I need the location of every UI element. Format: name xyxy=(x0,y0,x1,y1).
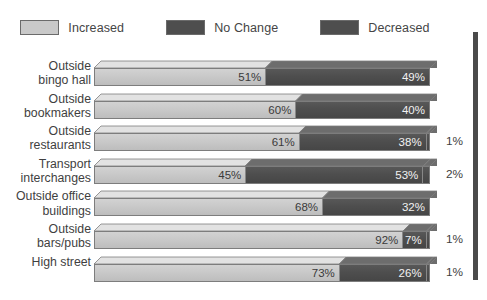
category-label-line: High street xyxy=(0,255,91,269)
category-label-line: bingo hall xyxy=(0,73,91,87)
legend-item-no_change: No Change xyxy=(166,20,278,35)
bar-top-face-no_change xyxy=(339,257,433,264)
outside-value-label: 2% xyxy=(446,167,463,181)
chart-row: Outsidebingo hall51%49% xyxy=(0,58,487,91)
stacked-bar[interactable]: 45%53% xyxy=(94,159,437,184)
category-label-line: bookmakers xyxy=(0,106,91,120)
segment-value-label: 68% xyxy=(295,201,322,213)
bar-top-bevel xyxy=(94,94,437,101)
segment-value-label: 51% xyxy=(238,71,265,83)
segment-value-label: 26% xyxy=(399,267,426,279)
bar-segment-increased[interactable]: 68% xyxy=(95,199,322,215)
category-label-line: restaurants xyxy=(0,138,91,152)
legend-item-increased: Increased xyxy=(20,20,124,35)
category-label: Outside officebuildings xyxy=(0,188,94,217)
bar-container: 60%40% xyxy=(94,91,487,124)
legend-item-decreased: Decreased xyxy=(320,20,429,35)
segment-value-label: 61% xyxy=(272,136,299,148)
bar-top-bevel xyxy=(94,224,437,231)
chart-row: Transportinterchanges45%53%2% xyxy=(0,156,487,189)
bar-top-face-increased xyxy=(94,257,346,264)
category-label-line: Outside xyxy=(0,222,91,236)
bar-segment-decreased[interactable] xyxy=(422,167,429,183)
category-label-line: buildings xyxy=(0,204,91,218)
stacked-bar[interactable]: 61%38% xyxy=(94,126,437,151)
bar-top-bevel xyxy=(94,257,437,264)
stacked-bar-chart: Outsidebingo hall51%49%Outsidebookmakers… xyxy=(0,58,487,293)
segment-value-label: 40% xyxy=(402,104,429,116)
legend-label: Increased xyxy=(68,21,124,35)
segment-value-label: 45% xyxy=(218,169,245,181)
category-label-line: Transport xyxy=(0,157,91,171)
segment-value-label: 73% xyxy=(312,267,339,279)
segment-value-label: 53% xyxy=(395,169,422,181)
segment-value-label: 38% xyxy=(399,136,426,148)
chart-legend: IncreasedNo ChangeDecreased xyxy=(0,20,450,35)
bar-segment-no_change[interactable]: 53% xyxy=(245,167,422,183)
bar-segment-no_change[interactable]: 38% xyxy=(299,134,426,150)
bar-top-face-no_change xyxy=(322,191,437,198)
bar-top-face-increased xyxy=(94,94,303,101)
bar-segment-decreased[interactable] xyxy=(426,265,429,281)
legend-swatch-no_change-icon xyxy=(166,20,205,35)
bar-segment-no_change[interactable]: 7% xyxy=(402,232,425,248)
category-label: Transportinterchanges xyxy=(0,156,94,185)
bar-container: 61%38%1% xyxy=(94,123,487,156)
legend-swatch-decreased-icon xyxy=(320,20,359,35)
bar-segment-increased[interactable]: 73% xyxy=(95,265,339,281)
bar-top-face-no_change xyxy=(265,61,437,68)
bar-top-bevel xyxy=(94,159,437,166)
bar-top-face-no_change xyxy=(296,94,437,101)
bar-segment-increased[interactable]: 51% xyxy=(95,69,265,85)
category-label-line: Outside xyxy=(0,92,91,106)
bar-top-bevel xyxy=(94,191,437,198)
category-label-line: Outside office xyxy=(0,189,91,203)
chart-row: Outsidebookmakers60%40% xyxy=(0,91,487,124)
stacked-bar[interactable]: 68%32% xyxy=(94,191,437,216)
bar-top-face-no_change xyxy=(245,159,430,166)
segment-value-label: 92% xyxy=(375,234,402,246)
stacked-bar[interactable]: 92%7% xyxy=(94,224,437,249)
bar-segment-increased[interactable]: 61% xyxy=(95,134,299,150)
bar-container: 51%49% xyxy=(94,58,487,91)
bar-segments: 45%53% xyxy=(94,166,430,184)
category-label-line: Outside xyxy=(0,124,91,138)
bar-segments: 73%26% xyxy=(94,264,430,282)
stacked-bar[interactable]: 60%40% xyxy=(94,94,437,119)
stacked-bar[interactable]: 51%49% xyxy=(94,61,437,86)
bar-segment-decreased[interactable] xyxy=(426,232,429,248)
category-label: Outsidebookmakers xyxy=(0,91,94,120)
bar-segment-increased[interactable]: 92% xyxy=(95,232,402,248)
stacked-bar[interactable]: 73%26% xyxy=(94,257,437,282)
chart-row: Outsiderestaurants61%38%1% xyxy=(0,123,487,156)
bar-segments: 68%32% xyxy=(94,198,430,216)
chart-row: Outsidebars/pubs92%7%1% xyxy=(0,221,487,254)
category-label-line: bars/pubs xyxy=(0,236,91,250)
bar-container: 45%53%2% xyxy=(94,156,487,189)
bar-segment-no_change[interactable]: 32% xyxy=(322,199,429,215)
category-label: Outsidebars/pubs xyxy=(0,221,94,250)
bar-segment-no_change[interactable]: 40% xyxy=(295,102,429,118)
bar-top-face-increased xyxy=(94,159,252,166)
bar-top-face-increased xyxy=(94,126,306,133)
category-label-line: interchanges xyxy=(0,171,91,185)
bar-segments: 51%49% xyxy=(94,68,430,86)
bar-top-bevel xyxy=(94,126,437,133)
legend-label: Decreased xyxy=(368,21,429,35)
page-gutter-rule xyxy=(473,32,478,280)
segment-value-label: 60% xyxy=(268,104,295,116)
bar-segment-increased[interactable]: 45% xyxy=(95,167,245,183)
legend-label: No Change xyxy=(214,21,278,35)
bar-container: 92%7%1% xyxy=(94,221,487,254)
bar-top-face-increased xyxy=(94,61,272,68)
bar-segment-no_change[interactable]: 49% xyxy=(265,69,429,85)
bar-top-face-increased xyxy=(94,191,329,198)
outside-value-label: 1% xyxy=(446,265,463,279)
category-label: Outsiderestaurants xyxy=(0,123,94,152)
bar-segments: 92%7% xyxy=(94,231,430,249)
bar-segment-no_change[interactable]: 26% xyxy=(339,265,426,281)
bar-segment-decreased[interactable] xyxy=(426,134,429,150)
category-label-line: Outside xyxy=(0,59,91,73)
chart-row: Outside officebuildings68%32% xyxy=(0,188,487,221)
bar-segment-increased[interactable]: 60% xyxy=(95,102,295,118)
